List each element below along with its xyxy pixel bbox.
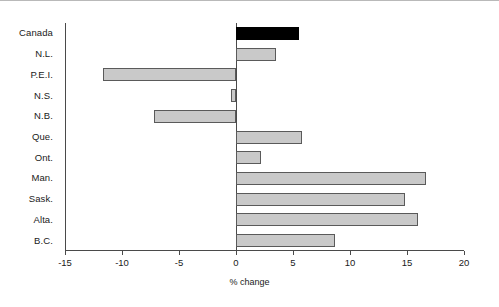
bar-p-e-i (103, 68, 236, 81)
category-axis-labels: CanadaN.L.P.E.I.N.S.N.B.Que.Ont.Man.Sask… (0, 23, 60, 251)
x-tick-label-3: 0 (233, 257, 238, 268)
bar-canada (236, 27, 299, 40)
bar-sask (236, 193, 405, 206)
x-tick-label-7: 20 (459, 257, 470, 268)
category-label-alta: Alta. (33, 215, 53, 225)
x-tick-label-0: -15 (58, 257, 72, 268)
bar-alta (236, 213, 418, 226)
category-label-n-b: N.B. (34, 111, 53, 121)
bar-chart: CanadaN.L.P.E.I.N.S.N.B.Que.Ont.Man.Sask… (0, 0, 499, 307)
x-tick-5 (350, 251, 351, 255)
x-tick-label-2: -5 (175, 257, 183, 268)
bar-man (236, 172, 426, 185)
bar-n-s (231, 89, 236, 102)
x-axis-title: % change (0, 277, 499, 287)
x-tick-3 (236, 251, 237, 255)
bar-b-c (236, 234, 335, 247)
category-label-n-l: N.L. (35, 49, 53, 59)
bar-n-b (154, 110, 236, 123)
category-label-man: Man. (31, 173, 53, 183)
category-label-canada: Canada (19, 28, 53, 38)
x-tick-0 (65, 251, 66, 255)
x-tick-2 (179, 251, 180, 255)
x-tick-7 (464, 251, 465, 255)
left-axis-line (65, 23, 66, 251)
x-tick-6 (407, 251, 408, 255)
bar-n-l (236, 48, 276, 61)
x-tick-4 (293, 251, 294, 255)
category-label-sask: Sask. (29, 194, 53, 204)
x-tick-label-6: 15 (402, 257, 413, 268)
x-tick-1 (122, 251, 123, 255)
bar-que (236, 131, 302, 144)
bottom-axis-line (65, 250, 464, 251)
category-label-n-s: N.S. (34, 91, 53, 101)
x-tick-label-5: 10 (345, 257, 356, 268)
x-tick-label-1: -10 (115, 257, 129, 268)
plot-area (65, 23, 464, 251)
x-tick-label-4: 5 (290, 257, 295, 268)
category-label-p-e-i: P.E.I. (30, 70, 53, 80)
category-label-b-c: B.C. (34, 236, 53, 246)
category-label-que: Que. (32, 132, 53, 142)
category-label-ont: Ont. (35, 153, 53, 163)
bar-ont (236, 151, 261, 164)
